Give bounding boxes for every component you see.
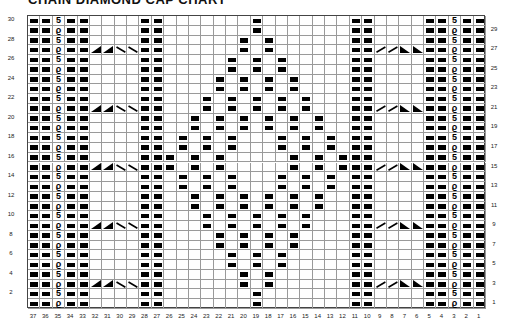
purl-stitch-cell [65, 133, 77, 143]
purl-stitch-cell [65, 153, 77, 163]
row-label: 28 [3, 36, 19, 42]
purl-stitch-cell [139, 289, 151, 299]
knit-stitch-cell [177, 163, 189, 173]
knit-stitch-cell [189, 104, 201, 114]
purl-stitch-cell [325, 172, 337, 182]
purl-stitch-cell [300, 104, 312, 114]
knit-stitch-cell [164, 211, 176, 221]
purl-stitch-cell [424, 163, 436, 173]
knit-stitch-cell [387, 260, 399, 270]
purl-stitch-cell [40, 36, 52, 46]
knit-stitch-cell [214, 260, 226, 270]
purl-stitch-cell [436, 270, 448, 280]
chart-title: CHAIN DIAMOND CAP CHART [28, 0, 226, 7]
knit-stitch-cell [337, 172, 349, 182]
knit-stitch-cell [313, 221, 325, 231]
purl-stitch-cell [350, 133, 362, 143]
knit-stitch-cell [387, 114, 399, 124]
knit-stitch-cell [102, 260, 114, 270]
knit-stitch-cell [164, 75, 176, 85]
purl-stitch-cell [152, 192, 164, 202]
cable-triangle-icon [90, 45, 102, 55]
knit-stitch-cell [164, 260, 176, 270]
purl-stitch-cell [436, 26, 448, 36]
knit-stitch-cell [387, 123, 399, 133]
knit-stitch-cell [337, 104, 349, 114]
purl-stitch-cell [177, 172, 189, 182]
knit-stitch-cell [201, 65, 213, 75]
knit-stitch-cell [238, 182, 250, 192]
knit-stitch-cell [102, 211, 114, 221]
purl-stitch-cell [40, 280, 52, 290]
knit-stitch-cell [412, 153, 424, 163]
purl-stitch-cell [152, 16, 164, 26]
knit-stitch-cell [399, 123, 411, 133]
knit-stitch-cell [263, 250, 275, 260]
cable-backslash-icon [127, 104, 139, 114]
knit-stitch-cell [263, 182, 275, 192]
knit-stitch-cell [412, 172, 424, 182]
knit-stitch-cell [238, 65, 250, 75]
knit-stitch-cell [300, 231, 312, 241]
knit-stitch-cell [164, 270, 176, 280]
knit-stitch-cell [387, 153, 399, 163]
knit-stitch-cell [276, 299, 288, 309]
purl-stitch-cell [201, 211, 213, 221]
knit-stitch-cell [102, 192, 114, 202]
knit-stitch-cell [90, 231, 102, 241]
purl-stitch-cell [189, 114, 201, 124]
knit-stitch-cell [214, 280, 226, 290]
knit-stitch-cell [177, 16, 189, 26]
purl-stitch-cell [461, 192, 473, 202]
knit-stitch-cell [337, 55, 349, 65]
knit-stitch-cell [337, 16, 349, 26]
knit-stitch-cell [276, 270, 288, 280]
knit-stitch-cell [387, 133, 399, 143]
knit-stitch-cell [164, 172, 176, 182]
purl-stitch-cell [424, 211, 436, 221]
knit-stitch-cell [115, 55, 127, 65]
purl-stitch-cell [362, 123, 374, 133]
purl-stitch-cell [300, 221, 312, 231]
purl-stitch-cell [238, 202, 250, 212]
row-label: 2 [3, 289, 19, 295]
purl-stitch-cell [461, 202, 473, 212]
purl-stitch-cell [350, 221, 362, 231]
purl-stitch-cell [288, 241, 300, 251]
purl-stitch-cell [350, 202, 362, 212]
knit-stitch-cell [276, 153, 288, 163]
purl-stitch-cell [263, 231, 275, 241]
knit-stitch-cell [164, 65, 176, 75]
purl-stitch-cell [78, 182, 90, 192]
knit-stitch-cell [325, 104, 337, 114]
purl-stitch-cell [28, 231, 40, 241]
knit-stitch-cell [337, 270, 349, 280]
purl-stitch-cell [139, 250, 151, 260]
row-label: 29 [486, 26, 502, 32]
knit-stitch-cell [387, 289, 399, 299]
knit-stitch-cell [263, 133, 275, 143]
knit-stitch-cell [251, 36, 263, 46]
purl-stitch-cell [436, 143, 448, 153]
purl-stitch-cell [78, 299, 90, 309]
knit-stitch-cell [412, 211, 424, 221]
knit-stitch-cell [189, 143, 201, 153]
cable-slash-icon [387, 221, 399, 231]
knit-stitch-cell [412, 75, 424, 85]
knit-stitch-cell [214, 270, 226, 280]
knit-stitch-cell [226, 123, 238, 133]
row-label: 26 [3, 55, 19, 61]
purl-stitch-cell [276, 94, 288, 104]
purl-stitch-cell [276, 250, 288, 260]
knit-stitch-cell [251, 231, 263, 241]
row-label: 27 [486, 45, 502, 51]
purl-stitch-cell [152, 231, 164, 241]
knit-stitch-cell [127, 182, 139, 192]
knit-stitch-cell [375, 250, 387, 260]
knit-stitch-cell [164, 45, 176, 55]
knit-stitch-cell [313, 260, 325, 270]
knit-stitch-cell [102, 94, 114, 104]
knit-stitch-cell [226, 153, 238, 163]
knit-stitch-cell [189, 280, 201, 290]
purl-stitch-cell [65, 55, 77, 65]
